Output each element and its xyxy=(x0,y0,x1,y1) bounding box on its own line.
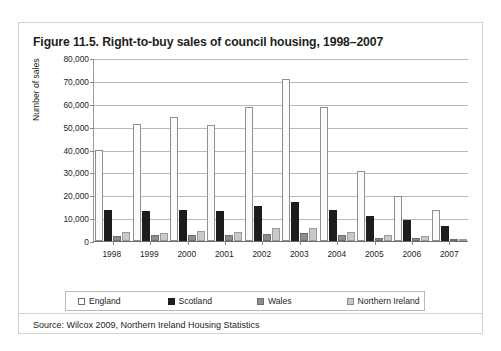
bar-wales-2006 xyxy=(412,238,420,241)
legend-label: Wales xyxy=(268,296,292,306)
bar-ni-2004 xyxy=(347,232,355,241)
bar-wales-1999 xyxy=(151,235,159,241)
bar-ni-2001 xyxy=(234,232,242,241)
x-axis-tick-label: 1998 xyxy=(93,249,131,259)
figure-title: Figure 11.5. Right-to-buy sales of counc… xyxy=(33,35,383,49)
y-axis-tick-label: 70,000 xyxy=(63,77,89,87)
bar-ni-2006 xyxy=(421,236,429,241)
x-axis-tick-label: 2005 xyxy=(356,249,394,259)
bar-scotland-2004 xyxy=(329,210,337,241)
bar-england-1999 xyxy=(133,124,141,241)
bar-ni-2003 xyxy=(309,228,317,241)
bar-ni-2002 xyxy=(272,228,280,241)
bar-wales-2003 xyxy=(300,233,308,241)
x-axis-tick-label: 2003 xyxy=(281,249,319,259)
bar-scotland-2005 xyxy=(366,216,374,241)
legend-item-wales[interactable]: Wales xyxy=(245,296,335,306)
bar-wales-2007 xyxy=(450,239,458,241)
y-axis-tick-label: 50,000 xyxy=(63,123,89,133)
bar-scotland-2000 xyxy=(179,210,187,241)
x-axis-tick-label: 2002 xyxy=(243,249,281,259)
bar-group-2003 xyxy=(281,59,318,241)
y-axis-tickmark xyxy=(90,242,94,243)
bar-group-2000 xyxy=(169,59,206,241)
bar-group-2004 xyxy=(318,59,355,241)
x-axis-tick-label: 2000 xyxy=(168,249,206,259)
bar-england-2006 xyxy=(394,196,402,241)
bar-england-2007 xyxy=(432,210,440,241)
bar-ni-2007 xyxy=(459,239,467,241)
bar-ni-1998 xyxy=(122,232,130,241)
bar-ni-2000 xyxy=(197,231,205,241)
bar-england-2000 xyxy=(170,117,178,241)
bar-wales-2002 xyxy=(263,234,271,241)
x-axis-tick-label: 2004 xyxy=(318,249,356,259)
bar-group-2006 xyxy=(393,59,430,241)
bar-group-2002 xyxy=(244,59,281,241)
y-axis-tick-label: 60,000 xyxy=(63,100,89,110)
legend-item-ni[interactable]: Northern Ireland xyxy=(335,296,425,306)
bar-group-1998 xyxy=(94,59,131,241)
y-axis-ticks: 80,00070,00060,00050,00040,00030,00020,0… xyxy=(49,59,93,244)
legend-swatch-scotland-icon xyxy=(168,298,175,305)
bar-group-2007 xyxy=(431,59,468,241)
bar-scotland-1998 xyxy=(104,210,112,241)
bar-england-2003 xyxy=(282,79,290,241)
y-axis-tick-label: 20,000 xyxy=(63,191,89,201)
bar-england-2001 xyxy=(207,125,215,241)
legend-swatch-england-icon xyxy=(78,298,85,305)
bar-scotland-2003 xyxy=(291,202,299,241)
divider xyxy=(19,313,482,314)
bar-scotland-1999 xyxy=(142,211,150,241)
bar-wales-1998 xyxy=(113,236,121,241)
bar-england-2005 xyxy=(357,171,365,241)
bar-wales-2000 xyxy=(188,235,196,241)
bar-england-2002 xyxy=(245,107,253,241)
source-note: Source: Wilcox 2009, Northern Ireland Ho… xyxy=(33,320,260,330)
bar-ni-2005 xyxy=(384,235,392,241)
x-axis-tick-label: 2006 xyxy=(393,249,431,259)
bar-group-2001 xyxy=(206,59,243,241)
y-axis-tick-label: 30,000 xyxy=(63,168,89,178)
chart-canvas xyxy=(93,59,468,242)
bar-wales-2004 xyxy=(338,235,346,241)
legend-swatch-ni-icon xyxy=(347,298,354,305)
bar-scotland-2002 xyxy=(254,206,262,241)
legend-label: Scotland xyxy=(179,296,212,306)
legend-item-england[interactable]: England xyxy=(66,296,156,306)
legend-item-scotland[interactable]: Scotland xyxy=(156,296,246,306)
page-bleed-text xyxy=(0,0,501,14)
bar-group-2005 xyxy=(356,59,393,241)
chart-plot-area: Number of sales 80,00070,00060,00050,000… xyxy=(33,59,470,281)
y-axis-tick-label: 80,000 xyxy=(63,54,89,64)
legend-label: Northern Ireland xyxy=(358,296,420,306)
bar-scotland-2007 xyxy=(441,226,449,241)
bar-england-1998 xyxy=(95,150,103,242)
y-axis-tick-label: 0 xyxy=(84,237,89,247)
y-axis-label: Number of sales xyxy=(31,58,41,121)
bar-ni-1999 xyxy=(160,233,168,241)
x-axis-ticks: 1998199920002001200220032004200520062007 xyxy=(93,249,468,259)
bar-wales-2005 xyxy=(375,238,383,241)
x-axis-tick-label: 2001 xyxy=(206,249,244,259)
figure-card: Figure 11.5. Right-to-buy sales of counc… xyxy=(18,22,483,334)
bar-scotland-2006 xyxy=(403,220,411,241)
x-axis-tick-label: 1999 xyxy=(131,249,169,259)
y-axis-tick-label: 40,000 xyxy=(63,146,89,156)
legend-label: England xyxy=(89,296,121,306)
bar-wales-2001 xyxy=(225,235,233,241)
bar-scotland-2001 xyxy=(216,211,224,241)
bar-groups xyxy=(94,59,468,241)
screenshot-root: Figure 11.5. Right-to-buy sales of counc… xyxy=(0,0,501,351)
x-axis-tick-label: 2007 xyxy=(431,249,469,259)
legend-swatch-wales-icon xyxy=(257,298,264,305)
chart-legend: EnglandScotlandWalesNorthern Ireland xyxy=(65,291,425,311)
bar-group-1999 xyxy=(131,59,168,241)
bar-england-2004 xyxy=(320,107,328,241)
y-axis-tick-label: 10,000 xyxy=(63,214,89,224)
